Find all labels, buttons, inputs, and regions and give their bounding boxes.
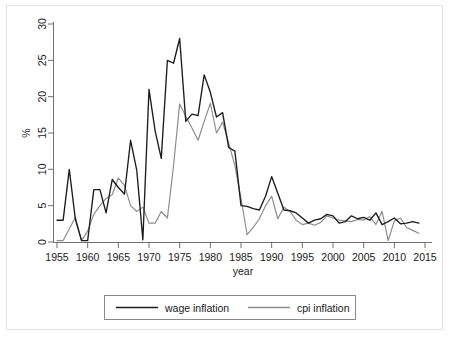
legend-label-cpi-inflation: cpi inflation <box>297 302 350 314</box>
y-tick-label: 5 <box>36 203 48 209</box>
x-tick-label: 1965 <box>107 251 131 263</box>
series-line-wage-inflation <box>57 39 419 241</box>
chart-legend: wage inflation cpi inflation <box>105 296 356 320</box>
plot-region: 051015202530 195519601965197019751980198… <box>0 0 450 341</box>
series-line-cpi-inflation <box>57 103 419 240</box>
y-tick-label: 25 <box>36 54 48 66</box>
x-tick-label: 1980 <box>199 251 223 263</box>
line-chart: 051015202530 195519601965197019751980198… <box>0 0 450 341</box>
x-tick-label: 1985 <box>229 251 253 263</box>
x-tick-label: 1970 <box>137 251 161 263</box>
x-tick-label: 2000 <box>321 251 345 263</box>
y-axis-ticks: 051015202530 <box>36 18 54 245</box>
chart-figure: 051015202530 195519601965197019751980198… <box>0 0 450 341</box>
y-tick-label: 30 <box>36 18 48 30</box>
x-tick-label: 2015 <box>413 251 437 263</box>
y-axis-title: % <box>20 128 32 137</box>
y-tick-label: 20 <box>36 91 48 103</box>
legend-label-wage-inflation: wage inflation <box>164 302 229 314</box>
x-tick-label: 1975 <box>168 251 192 263</box>
x-axis-ticks: 1955196019651970197519801985199019952000… <box>45 243 437 264</box>
x-tick-label: 2010 <box>383 251 407 263</box>
x-tick-label: 1955 <box>45 251 69 263</box>
y-tick-label: 15 <box>36 127 48 139</box>
x-tick-label: 2005 <box>352 251 376 263</box>
x-tick-label: 1995 <box>291 251 315 263</box>
x-axis-title: year <box>233 265 254 277</box>
x-tick-label: 1960 <box>76 251 100 263</box>
y-tick-label: 0 <box>36 239 48 245</box>
y-tick-label: 10 <box>36 163 48 175</box>
x-tick-label: 1990 <box>260 251 284 263</box>
